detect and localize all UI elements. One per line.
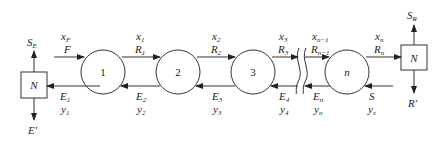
r1-label: R1 (134, 43, 145, 57)
svg-text:n: n (344, 66, 350, 78)
e1-label: E1 (59, 90, 70, 104)
right-bottom-label: R′ (407, 97, 418, 109)
r3-label: R3 (277, 43, 289, 57)
break-mark-right (303, 48, 307, 94)
x3-label: x3 (278, 30, 288, 44)
extraction-cascade-diagram: N SE E′ N SR R′ 1 2 3 n xF F (0, 0, 444, 142)
left-bottom-label: E′ (27, 124, 38, 136)
svg-text:N: N (409, 52, 418, 64)
feed-x-label: xF (60, 30, 71, 44)
y3-label: y3 (212, 103, 222, 117)
e2-label: E2 (135, 90, 147, 104)
rn-label: Rn (373, 43, 385, 57)
e3-label: E3 (211, 90, 223, 104)
stage-3: 3 (231, 50, 275, 94)
stage-2: 2 (156, 50, 200, 94)
y2-label: y2 (136, 103, 146, 117)
stage-n: n (325, 50, 369, 94)
en-label: En (312, 90, 324, 104)
yn-label: yn (313, 103, 323, 117)
rn-1-label: Rn−1 (310, 43, 329, 57)
svg-text:1: 1 (100, 66, 106, 78)
left-top-label: SE (27, 36, 38, 50)
x1-label: x1 (135, 30, 144, 44)
right-top-label: SR (407, 9, 418, 23)
xn-label: xn (374, 30, 384, 44)
r2-label: R2 (210, 43, 222, 57)
svg-text:3: 3 (250, 66, 256, 78)
feed-f-label: F (63, 43, 71, 55)
y1-label: y1 (60, 103, 69, 117)
svg-text:N: N (29, 79, 38, 91)
break-mark-left (296, 48, 300, 94)
svg-text:2: 2 (175, 66, 181, 78)
left-mixer-box: N (21, 72, 47, 98)
x2-label: x2 (211, 30, 221, 44)
y4-label: y4 (279, 103, 289, 117)
solvent-ys-label: ys (367, 103, 376, 117)
xn-1-label: xn−1 (311, 30, 329, 44)
stage-1: 1 (81, 50, 125, 94)
e4-label: E4 (278, 90, 290, 104)
right-mixer-box: N (401, 45, 427, 70)
solvent-s-label: S (369, 90, 375, 102)
